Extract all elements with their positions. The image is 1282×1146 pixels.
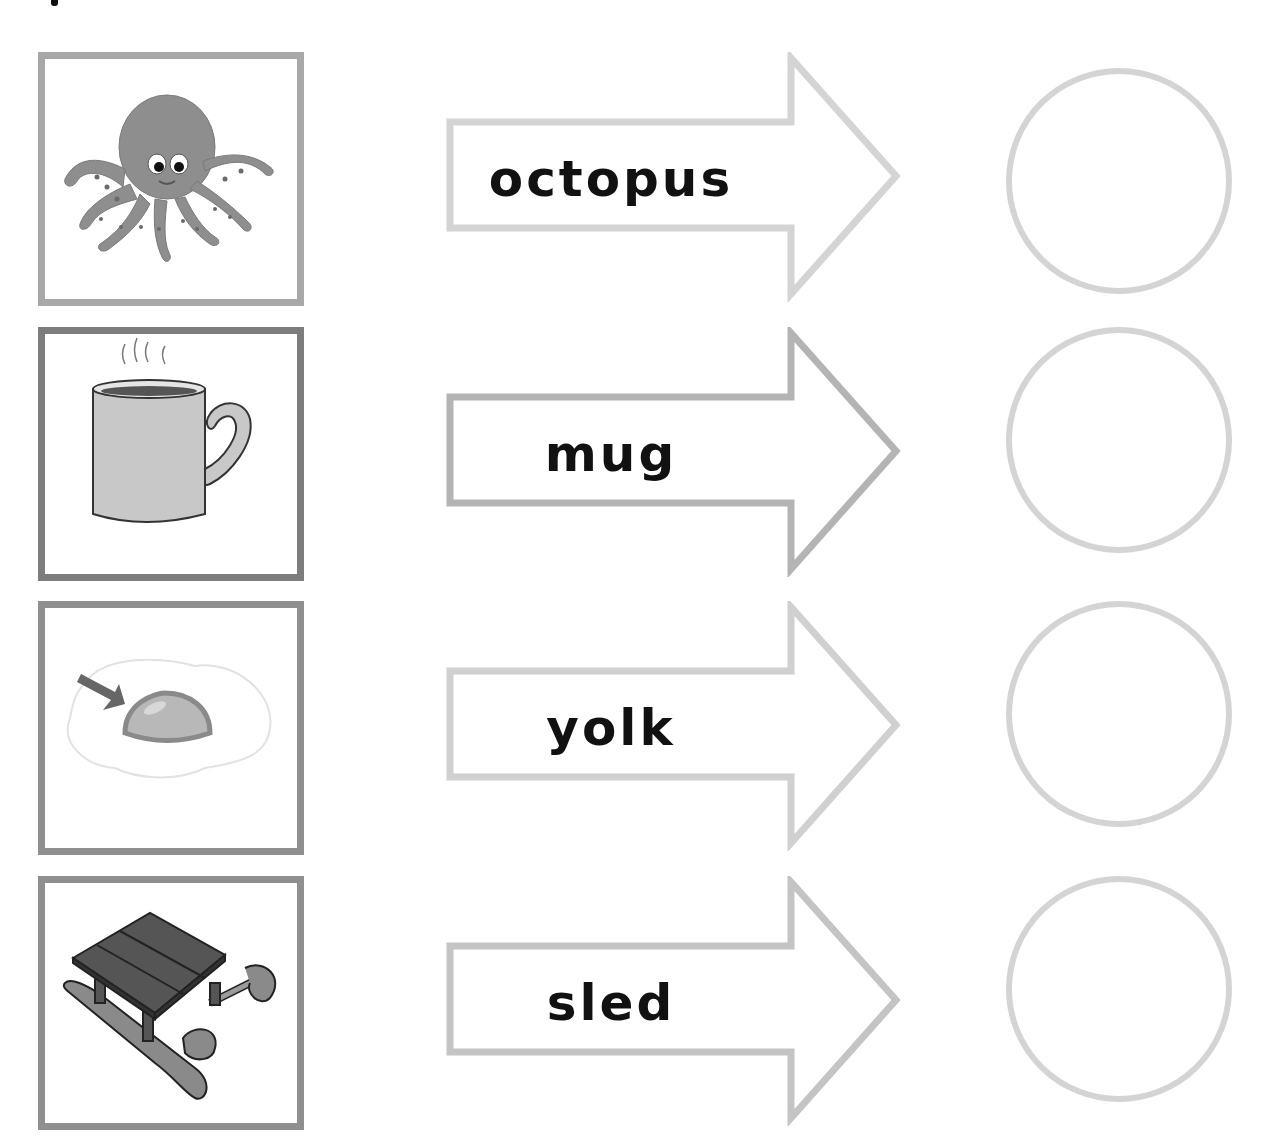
answer-circle-octopus[interactable]: [1006, 68, 1232, 294]
fried-egg-icon: [45, 608, 297, 848]
top-edge-mark: [51, 0, 58, 6]
arrow-sled: sled: [444, 876, 904, 1126]
word-label: yolk: [456, 683, 766, 773]
worksheet-row-octopus: octopus: [0, 52, 1282, 322]
sled-icon: [45, 883, 297, 1123]
picture-frame-mug: [38, 327, 304, 581]
arrow-yolk: yolk: [444, 601, 904, 851]
word-label: sled: [456, 958, 766, 1048]
word-label: mug: [456, 409, 766, 499]
picture-frame-yolk: [38, 601, 304, 855]
octopus-icon: [45, 59, 297, 299]
worksheet-row-yolk: yolk: [0, 601, 1282, 871]
mug-icon: [45, 334, 297, 574]
word-label: octopus: [456, 134, 766, 224]
answer-circle-yolk[interactable]: [1006, 601, 1232, 827]
picture-frame-octopus: [38, 52, 304, 306]
worksheet-row-sled: sled: [0, 876, 1282, 1146]
arrow-mug: mug: [444, 327, 904, 577]
picture-frame-sled: [38, 876, 304, 1130]
answer-circle-mug[interactable]: [1006, 327, 1232, 553]
worksheet-row-mug: mug: [0, 327, 1282, 597]
answer-circle-sled[interactable]: [1006, 876, 1232, 1102]
arrow-octopus: octopus: [444, 52, 904, 302]
